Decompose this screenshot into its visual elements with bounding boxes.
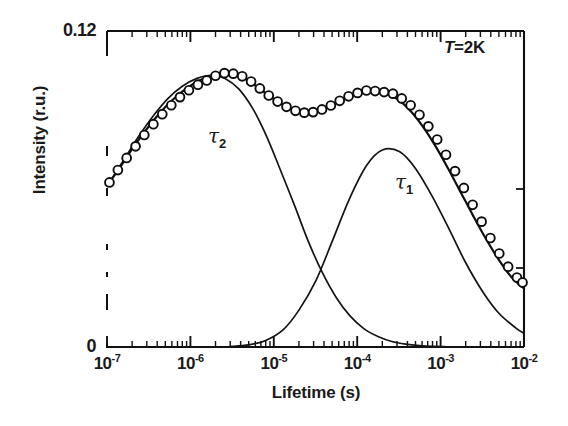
- x-tick-label--2: 10-2: [492, 352, 556, 374]
- data-point: [362, 86, 371, 95]
- data-point: [459, 184, 468, 193]
- data-point: [451, 167, 460, 176]
- data-point: [518, 278, 527, 287]
- data-point: [468, 200, 477, 209]
- data-point: [113, 166, 122, 175]
- chart-figure: Intensity (r.u.) Lifetime (s) 0.12 0 10-…: [0, 0, 568, 426]
- data-point: [291, 106, 300, 115]
- data-point: [105, 178, 114, 187]
- data-point: [486, 234, 495, 243]
- data-point: [424, 122, 433, 131]
- data-point-markers: [105, 69, 527, 287]
- temperature-symbol: T: [444, 38, 454, 57]
- data-point: [140, 131, 149, 140]
- tau2-symbol: τ: [208, 124, 219, 148]
- data-point: [247, 77, 256, 86]
- data-point: [194, 80, 203, 89]
- data-point: [344, 92, 353, 101]
- data-point: [504, 262, 513, 271]
- data-point: [380, 88, 389, 97]
- y-axis-label: Intensity (r.u.): [30, 20, 50, 260]
- x-axis-ticks-bottom: [107, 336, 524, 347]
- data-point: [326, 101, 335, 110]
- y-tick-label-max: 0.12: [24, 20, 96, 41]
- tau1-subscript: 1: [406, 182, 413, 197]
- temperature-annotation: T=2K: [444, 38, 485, 58]
- x-tick-label--6: 10-6: [158, 352, 222, 374]
- data-point: [131, 142, 140, 151]
- data-point: [149, 120, 158, 129]
- data-point: [202, 76, 211, 85]
- data-point: [371, 87, 380, 96]
- tau1-component-curve: [230, 149, 524, 347]
- data-point: [282, 102, 291, 111]
- tau1-symbol: τ: [395, 170, 406, 194]
- x-tick-label--5: 10-5: [242, 352, 306, 374]
- data-point: [318, 105, 327, 114]
- data-point: [185, 86, 194, 95]
- data-point: [264, 91, 273, 100]
- data-point: [397, 94, 406, 103]
- data-point: [495, 249, 504, 258]
- data-point: [335, 96, 344, 105]
- x-tick-label--3: 10-3: [409, 352, 473, 374]
- tau2-curve-label: τ2: [208, 124, 226, 151]
- x-tick-label--7: 10-7: [75, 352, 139, 374]
- data-point: [389, 89, 398, 98]
- data-point: [229, 69, 238, 78]
- data-point: [442, 150, 451, 159]
- temperature-value: =2K: [454, 38, 485, 57]
- data-point: [122, 154, 131, 163]
- data-point: [300, 108, 309, 117]
- data-point: [158, 110, 167, 119]
- data-point: [433, 135, 442, 144]
- data-point: [211, 71, 220, 80]
- data-point: [273, 97, 282, 106]
- y-axis-ticks-right: [516, 189, 524, 268]
- data-point: [415, 110, 424, 119]
- tau1-curve-label: τ1: [395, 170, 413, 197]
- data-point: [353, 88, 362, 97]
- data-point: [406, 101, 415, 110]
- tau2-subscript: 2: [219, 136, 226, 151]
- x-tick-label--4: 10-4: [325, 352, 389, 374]
- data-point: [477, 217, 486, 226]
- data-point: [309, 108, 318, 117]
- data-point: [167, 101, 176, 110]
- x-axis-label: Lifetime (s): [107, 383, 525, 403]
- data-point: [238, 72, 247, 81]
- data-point: [176, 93, 185, 102]
- data-point: [220, 69, 229, 78]
- data-point: [255, 84, 264, 93]
